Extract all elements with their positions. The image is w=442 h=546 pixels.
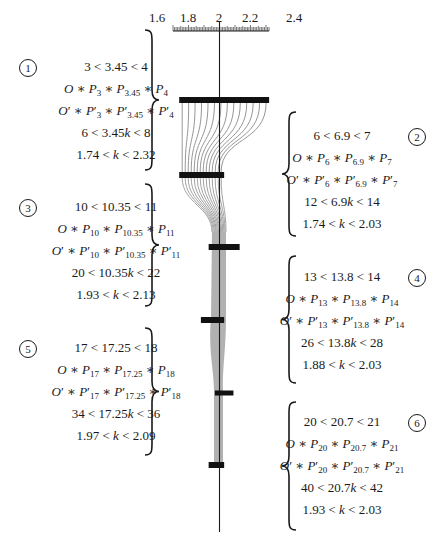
k-range-bar-1 [179, 97, 269, 103]
constraint-block-2: 6 < 6.9 < 7 O ∗ P6 ∗ P6.9 ∗ P7 O′ ∗ P′6 … [272, 125, 412, 235]
prime-point-sequence-line: O′ ∗ P′20 ∗ P′20.7 ∗ P′21 [272, 455, 412, 477]
tick-label-1-6: 1.6 [149, 10, 165, 26]
k-range-bar-4 [201, 317, 224, 323]
k-range-line: 1.97 < k < 2.09 [46, 425, 186, 447]
tick-label-2: 2 [216, 10, 223, 26]
tick-label-2-4: 2.4 [286, 10, 302, 26]
point-sequence-line: O ∗ P20 ∗ P20.7 ∗ P21 [272, 433, 412, 455]
value-range-line: 20 < 20.7 < 21 [272, 411, 412, 433]
prime-point-sequence-line: O′ ∗ P′13 ∗ P′13.8 ∗ P′14 [272, 310, 412, 332]
scaled-range-line: 40 < 20.7k < 42 [272, 477, 412, 499]
tick-label-1-8: 1.8 [180, 10, 196, 26]
prime-point-sequence-line: O′ ∗ P′17 ∗ P′17.25 ∗ P′18 [46, 381, 186, 403]
point-sequence-line: O ∗ P10 ∗ P10.35 ∗ P11 [46, 218, 186, 240]
point-sequence-line: O ∗ P13 ∗ P13.8 ∗ P14 [272, 288, 412, 310]
constraint-block-4: 13 < 13.8 < 14 O ∗ P13 ∗ P13.8 ∗ P14 O′ … [272, 266, 412, 376]
convergence-funnel [182, 103, 266, 468]
k-range-line: 1.74 < k < 2.32 [46, 144, 186, 166]
k-range-line: 1.93 < k < 2.13 [46, 284, 186, 306]
point-sequence-line: O ∗ P6 ∗ P6.9 ∗ P7 [272, 147, 412, 169]
prime-point-sequence-line: O′ ∗ P′6 ∗ P′6.9 ∗ P′7 [272, 169, 412, 191]
k-range-bar-3 [209, 244, 240, 250]
value-range-line: 6 < 6.9 < 7 [272, 125, 412, 147]
k-range-bar-5 [215, 391, 234, 396]
value-range-line: 3 < 3.45 < 4 [46, 56, 186, 78]
scaled-range-line: 34 < 17.25k < 36 [46, 403, 186, 425]
scaled-range-line: 26 < 13.8k < 28 [272, 332, 412, 354]
k-range-line: 1.88 < k < 2.03 [272, 354, 412, 376]
point-sequence-line: O ∗ P3 ∗ P3.45 ∗ P4 [46, 78, 186, 100]
value-range-line: 17 < 17.25 < 18 [46, 337, 186, 359]
constraint-block-1: 3 < 3.45 < 4 O ∗ P3 ∗ P3.45 ∗ P4 O′ ∗ P′… [46, 56, 186, 166]
constraint-block-3: 10 < 10.35 < 11 O ∗ P10 ∗ P10.35 ∗ P11 O… [46, 196, 186, 306]
k-range-bar-2 [179, 172, 224, 178]
value-range-line: 13 < 13.8 < 14 [272, 266, 412, 288]
prime-point-sequence-line: O′ ∗ P′3 ∗ P′3.45 ∗ P′4 [46, 100, 186, 122]
tick-label-2-2: 2.2 [242, 10, 258, 26]
scaled-range-line: 6 < 3.45k < 8 [46, 122, 186, 144]
scaled-range-line: 20 < 10.35k < 22 [46, 262, 186, 284]
scaled-range-line: 12 < 6.9k < 14 [272, 191, 412, 213]
k-range-line: 1.74 < k < 2.03 [272, 213, 412, 235]
constraint-block-6: 20 < 20.7 < 21 O ∗ P20 ∗ P20.7 ∗ P21 O′ … [272, 411, 412, 521]
step-badge-5: 5 [19, 340, 37, 358]
value-range-line: 10 < 10.35 < 11 [46, 196, 186, 218]
step-badge-3: 3 [19, 199, 37, 217]
prime-point-sequence-line: O′ ∗ P′10 ∗ P′10.35 ∗ P′11 [46, 240, 186, 262]
k-range-bar-6 [209, 462, 225, 468]
k-range-line: 1.93 < k < 2.03 [272, 499, 412, 521]
step-badge-1: 1 [19, 59, 37, 77]
point-sequence-line: O ∗ P17 ∗ P17.25 ∗ P18 [46, 359, 186, 381]
constraint-block-5: 17 < 17.25 < 18 O ∗ P17 ∗ P17.25 ∗ P18 O… [46, 337, 186, 447]
